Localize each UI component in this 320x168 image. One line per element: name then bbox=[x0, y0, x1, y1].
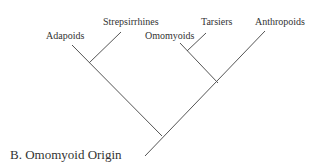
taxon-label-adapoids: Adapoids bbox=[46, 30, 84, 41]
branch-omomyoids bbox=[180, 43, 218, 83]
branch-strepsirrhines bbox=[89, 32, 121, 63]
branch-anthropoids bbox=[145, 31, 265, 156]
taxon-label-anthropoids: Anthropoids bbox=[255, 16, 305, 27]
figure-title: B. Omomyoid Origin bbox=[10, 147, 122, 163]
branch-adapoids bbox=[72, 45, 162, 136]
taxon-label-strepsirrhines: Strepsirrhines bbox=[103, 16, 159, 27]
taxon-label-tarsiers: Tarsiers bbox=[201, 16, 233, 27]
cladogram-figure: Adapoids Strepsirrhines Omomyoids Tarsie… bbox=[0, 0, 320, 168]
taxon-label-omomyoids: Omomyoids bbox=[145, 30, 194, 41]
